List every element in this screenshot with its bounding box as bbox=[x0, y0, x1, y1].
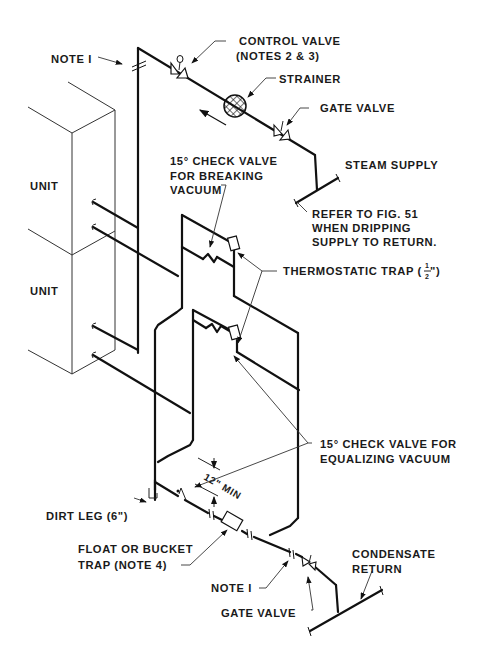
gate-valve-return-icon bbox=[302, 555, 316, 570]
gate-valve-top-label: GATE VALVE bbox=[320, 102, 395, 114]
condensate-return-piping bbox=[92, 215, 383, 636]
steam-piping-diagram: UNIT UNIT bbox=[0, 0, 483, 666]
gate-valve-bottom-label: GATE VALVE bbox=[221, 607, 296, 619]
check-equalizing-label-2: EQUALIZING VACUUM bbox=[320, 453, 451, 465]
control-valve-notes-label: (NOTES 2 & 3) bbox=[236, 50, 320, 62]
float-trap-label-1: FLOAT OR BUCKET bbox=[78, 543, 193, 555]
note1-top-label: NOTE I bbox=[51, 53, 92, 65]
condensate-return-label-2: RETURN bbox=[352, 563, 402, 575]
control-valve-label: CONTROL VALVE bbox=[239, 35, 341, 47]
clearance-label: 12" MIN bbox=[202, 471, 243, 501]
note1-bottom-label: NOTE I bbox=[211, 582, 252, 594]
check-breaking-label-1: 15° CHECK VALVE bbox=[170, 155, 278, 167]
strainer-icon bbox=[224, 95, 246, 117]
thermostatic-trap-lower-icon bbox=[229, 325, 241, 340]
condensate-return-label-1: CONDENSATE bbox=[352, 548, 436, 560]
flow-direction-arrow bbox=[200, 110, 226, 125]
thermostatic-trap-label: THERMOSTATIC TRAP ( 1 2 ") bbox=[266, 262, 440, 280]
svg-text:1: 1 bbox=[425, 262, 430, 269]
refer-label-3: SUPPLY TO RETURN. bbox=[312, 236, 437, 248]
svg-text:2: 2 bbox=[425, 273, 430, 280]
float-trap-label-2: TRAP (NOTE 4) bbox=[78, 559, 167, 571]
check-valve-equalizing-icon bbox=[177, 488, 187, 500]
dirt-leg-label: DIRT LEG (6") bbox=[46, 510, 128, 522]
unit-lower-label: UNIT bbox=[30, 285, 59, 297]
strainer-label: STRAINER bbox=[279, 73, 341, 85]
check-breaking-label-3: VACUUM bbox=[170, 184, 222, 196]
svg-text:THERMOSTATIC TRAP (: THERMOSTATIC TRAP ( bbox=[283, 265, 422, 277]
check-equalizing-label-1: 15° CHECK VALVE FOR bbox=[320, 438, 457, 450]
steam-supply-label: STEAM SUPPLY bbox=[345, 159, 438, 171]
refer-label-2: WHEN DRIPPING bbox=[312, 222, 411, 234]
refer-label-1: REFER TO FIG. 51 bbox=[312, 208, 418, 220]
steam-supply-line bbox=[92, 48, 340, 353]
unit-upper-label: UNIT bbox=[30, 180, 59, 192]
control-valve-icon bbox=[171, 56, 188, 79]
thermostatic-trap-upper-icon bbox=[228, 236, 240, 251]
check-breaking-label-2: FOR BREAKING bbox=[170, 170, 264, 182]
svg-text:"): ") bbox=[430, 265, 440, 277]
float-bucket-trap-icon bbox=[221, 511, 243, 530]
